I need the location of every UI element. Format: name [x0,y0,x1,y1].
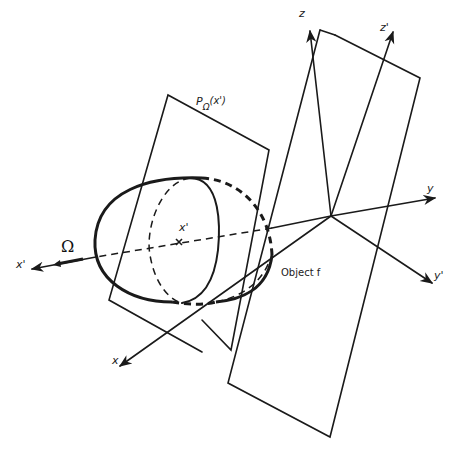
z-axis-label: z [298,7,305,20]
y-prime-axis [331,216,432,283]
projection-plane [109,95,269,352]
center-label: x' [178,221,189,234]
projection-label: PΩ(x') [196,95,226,112]
object-label: Object f [281,267,321,278]
y-axis-label: y [426,182,434,195]
x-axis-label: x [111,354,119,367]
object-ellipsoid [95,178,272,304]
z-prime-axis-label: z' [379,21,389,34]
y-prime-axis-label: y' [433,269,444,282]
z-axis [310,31,331,216]
x-prime-axis-label: x' [15,258,26,271]
z-prime-axis [331,32,393,216]
center-marker [176,239,182,245]
omega-label: Ω [61,237,74,256]
y-axis [331,198,435,216]
projection-geometry-diagram: PΩ(x') z z' y y' x x' x' Ω Object f [0,0,456,450]
detector-plane [228,30,420,437]
